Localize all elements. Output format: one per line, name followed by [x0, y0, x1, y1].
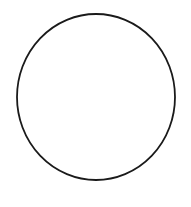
canvas-background: [0, 0, 191, 207]
circle-figure: [0, 0, 191, 207]
drawing-canvas: Circle: [0, 0, 191, 207]
